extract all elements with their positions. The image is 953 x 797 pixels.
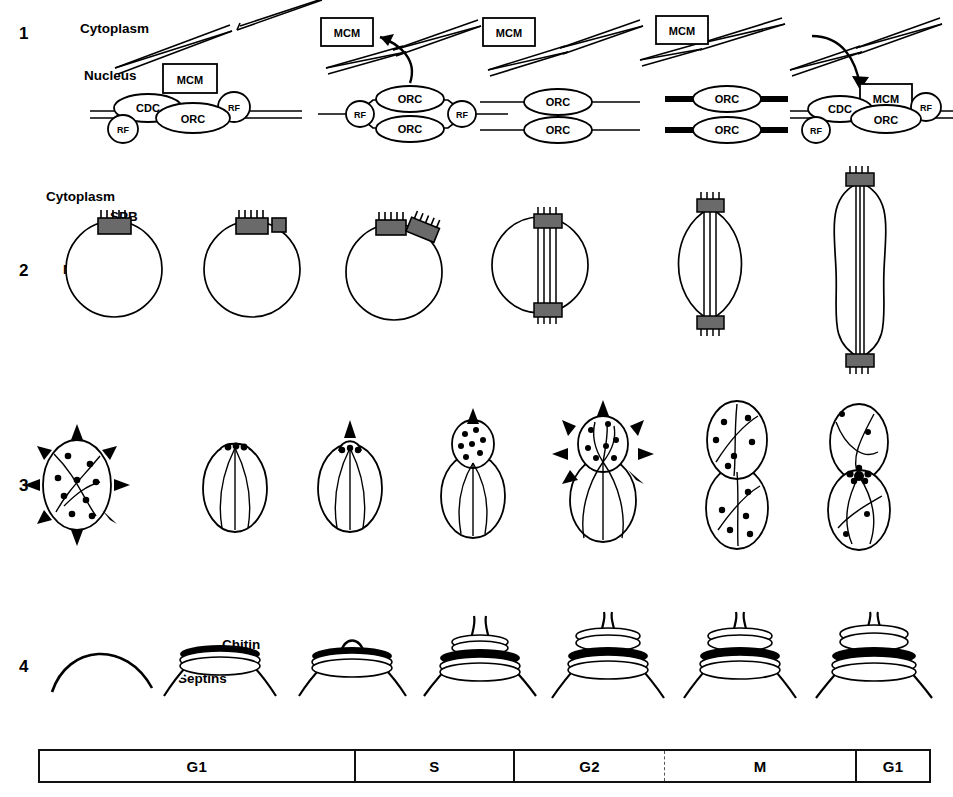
row1-panel-5-reassembled: MCM RF CDC ORC RF [790, 8, 953, 148]
row1-p5-rf-left-text: RF [810, 126, 822, 136]
row1-p5-orc-text: ORC [874, 114, 899, 126]
growth-arrow [467, 408, 479, 424]
row2-panel-5-elongated-spindle [660, 194, 770, 334]
spb-plaque-icon [236, 210, 268, 234]
phase-g2[interactable]: G2 [513, 751, 664, 781]
row2-panel-1-single-spb [56, 212, 176, 322]
row1-p1-mcm-text: MCM [177, 74, 203, 86]
row2-panel-2-satellite [196, 212, 316, 322]
actin-patches [225, 443, 248, 451]
row3-panel-4-small-bud [428, 408, 518, 548]
row1-panel-1-prerc: MCM RF CDC ORC RF [90, 8, 305, 148]
row-number-4: 4 [19, 658, 28, 675]
spb-plaque-bottom-icon [846, 354, 874, 374]
row3-panel-6-large-bud [690, 398, 785, 553]
row1-p4-mcm-text: MCM [669, 25, 695, 37]
spb-plaque-top-icon [534, 207, 562, 228]
row4-panel-7-septin-splitting [812, 612, 937, 702]
row1-p3-orc-bottom-text: ORC [546, 124, 571, 136]
cell-cycle-figure: 1 2 3 4 Cytoplasm Nucleus MCM RF CDC ORC [0, 0, 953, 797]
row1-p3-orc-top-text: ORC [546, 96, 571, 108]
row2-panel-4-short-spindle [490, 206, 610, 324]
row1-p5-rf-right-text: RF [920, 103, 932, 113]
spb-plaque-icon-1 [376, 212, 406, 235]
row4-panel-1-unbudded [48, 630, 158, 700]
row1-p3-mcm-text: MCM [496, 27, 522, 39]
spb-plaque-bottom-icon [697, 316, 724, 336]
row3-panel-2-polarized [190, 432, 280, 542]
row3-panel-1-isotropic [20, 420, 135, 550]
row2-panel-3-duplicated-spb [336, 212, 466, 322]
row-number-2: 2 [19, 262, 28, 279]
row1-p2-mcm-text: MCM [334, 27, 360, 39]
spb-plaque-top-icon [697, 192, 724, 212]
phase-g1-start[interactable]: G1 [40, 751, 354, 781]
row3-panel-3-bud-emergence [305, 418, 395, 543]
phase-g1-end[interactable]: G1 [855, 751, 929, 781]
row1-p4-orc-bottom-text: ORC [715, 124, 740, 136]
growth-arrow [344, 420, 356, 438]
row2-panel-6-anaphase-spindle [810, 170, 920, 370]
row4-panel-4-neck-rings [420, 616, 540, 701]
row3-panel-7-cytokinesis [812, 398, 907, 553]
row4-panel-2-chitin-ring [160, 630, 280, 700]
spb-satellite-icon [272, 218, 286, 232]
row4-panel-5-hourglass [548, 612, 668, 702]
row1-p1-cdc-text: CDC [136, 102, 160, 114]
row1-p2-orc-top-text: ORC [398, 93, 423, 105]
row1-p5-cdc-text: CDC [828, 103, 852, 115]
row1-p1-orc-text: ORC [181, 113, 206, 125]
row1-p1-rf-left-text: RF [117, 125, 129, 135]
row1-p1-rf-right-text: RF [228, 103, 240, 113]
row1-p5-mcm-text: MCM [873, 93, 899, 105]
spb-plaque-icon [98, 210, 131, 234]
row-number-1: 1 [19, 25, 28, 42]
row4-panel-6-mitotic-neck [680, 612, 800, 702]
row4-panel-3-bud-emergence [295, 626, 410, 701]
row2-cytoplasm-label: Cytoplasm [46, 190, 115, 204]
spb-plaque-top-icon [846, 166, 874, 186]
row1-p2-orc-bottom-text: ORC [398, 123, 423, 135]
row1-p2-rf-left-text: RF [354, 110, 366, 120]
row1-p2-rf-right-text: RF [456, 110, 468, 120]
phase-s[interactable]: S [354, 751, 513, 781]
phase-m[interactable]: M [664, 751, 855, 781]
cell-cycle-phase-bar: G1 S G2 M G1 [38, 749, 931, 783]
spb-plaque-bottom-icon [534, 303, 562, 324]
row1-p4-orc-top-text: ORC [715, 93, 740, 105]
row3-panel-5-isotropic-bud [548, 400, 658, 550]
